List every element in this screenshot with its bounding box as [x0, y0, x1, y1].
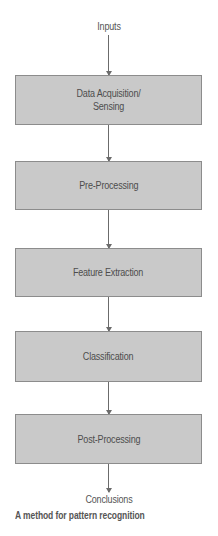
arrow-postprocessing-to-conclusions [108, 464, 109, 492]
step-data-acquisition: Data Acquisition/ Sensing [15, 75, 202, 125]
arrow-preprocessing-to-feature-extraction [108, 210, 109, 248]
arrow-acquisition-to-preprocessing [108, 125, 109, 161]
step-feature-extraction: Feature Extraction [15, 248, 202, 297]
step-label: Data Acquisition/ Sensing [77, 87, 141, 113]
arrow-inputs-to-acquisition [108, 35, 109, 75]
step-label: Feature Extraction [73, 266, 143, 279]
step-label: Classification [83, 350, 134, 363]
arrow-classification-to-postprocessing [108, 382, 109, 414]
step-pre-processing: Pre-Processing [15, 161, 202, 210]
inputs-label: Inputs [11, 21, 207, 32]
step-label: Post-Processing [77, 433, 140, 446]
step-post-processing: Post-Processing [15, 414, 202, 464]
figure-caption: A method for pattern recognition [15, 510, 145, 521]
conclusions-label: Conclusions [11, 494, 207, 505]
step-label: Pre-Processing [79, 179, 138, 192]
step-classification: Classification [15, 331, 202, 382]
arrow-feature-extraction-to-classification [108, 297, 109, 331]
